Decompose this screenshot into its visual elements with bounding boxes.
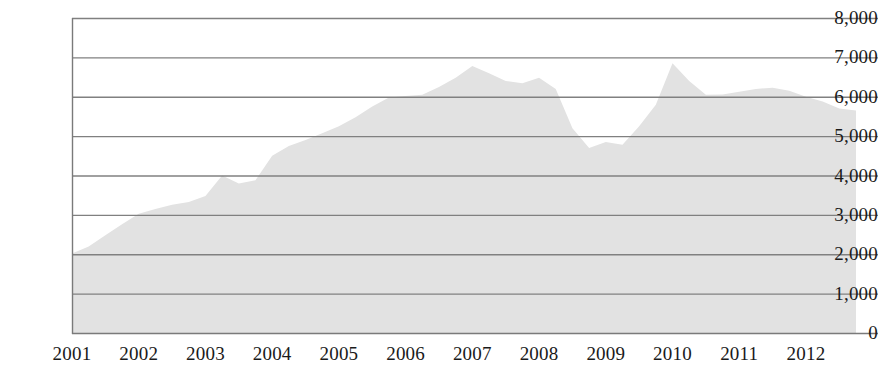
chart-container: 01,0002,0003,0004,0005,0006,0007,0008,00… xyxy=(0,0,878,376)
y-tick-label-5000: 5,000 xyxy=(814,126,878,145)
y-tick-label-3000: 3,000 xyxy=(814,205,878,224)
y-tick-label-0: 0 xyxy=(814,323,878,342)
y-tick-label-6000: 6,000 xyxy=(814,87,878,106)
x-tick-label-2011: 2011 xyxy=(707,344,771,363)
area-chart-plot: 01,0002,0003,0004,0005,0006,0007,0008,00… xyxy=(0,0,878,376)
x-tick-label-2002: 2002 xyxy=(107,344,171,363)
chart-svg xyxy=(0,0,878,376)
x-tick-label-2012: 2012 xyxy=(774,344,838,363)
x-tick-label-2008: 2008 xyxy=(507,344,571,363)
y-tick-label-7000: 7,000 xyxy=(814,47,878,66)
y-tick-label-4000: 4,000 xyxy=(814,166,878,185)
x-tick-label-2001: 2001 xyxy=(40,344,104,363)
area-series-fill xyxy=(72,63,856,333)
x-tick-label-2005: 2005 xyxy=(307,344,371,363)
x-tick-label-2010: 2010 xyxy=(641,344,705,363)
x-tick-label-2006: 2006 xyxy=(374,344,438,363)
x-tick-label-2009: 2009 xyxy=(574,344,638,363)
x-tick-label-2004: 2004 xyxy=(240,344,304,363)
y-tick-label-8000: 8,000 xyxy=(814,8,878,27)
x-tick-label-2007: 2007 xyxy=(440,344,504,363)
y-tick-label-2000: 2,000 xyxy=(814,244,878,263)
y-tick-label-1000: 1,000 xyxy=(814,284,878,303)
x-tick-label-2003: 2003 xyxy=(173,344,237,363)
